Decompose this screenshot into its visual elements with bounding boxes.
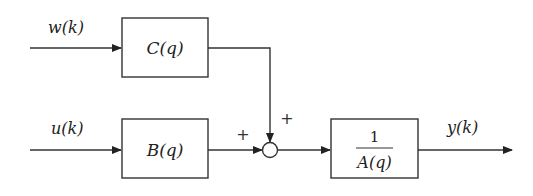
sum-sign-top: +	[280, 109, 293, 128]
block-a-numerator: 1	[370, 128, 380, 146]
block-diagram: w(k) C(q) u(k) B(q) + + 1 A(q) y(k)	[0, 0, 533, 196]
output-label-y: y(k)	[446, 118, 478, 137]
summing-junction	[263, 143, 278, 158]
block-b-label: B(q)	[146, 140, 184, 160]
sum-sign-left: +	[236, 125, 249, 144]
input-label-w: w(k)	[48, 18, 84, 37]
block-a-denominator: A(q)	[355, 153, 391, 172]
block-c-label: C(q)	[146, 38, 183, 58]
input-label-u: u(k)	[51, 119, 83, 138]
